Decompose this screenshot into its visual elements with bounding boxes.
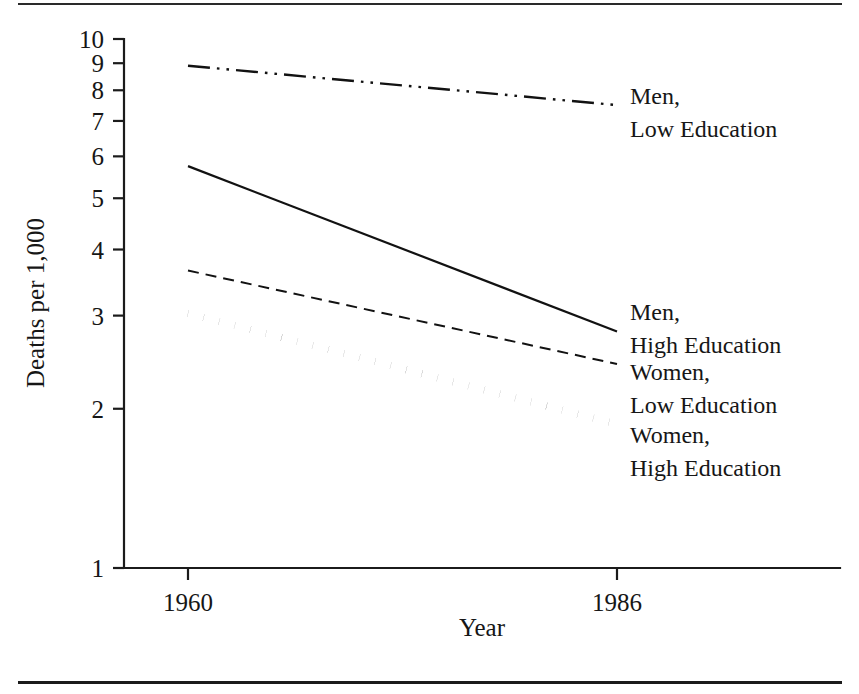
y-tick-label-5: 5 xyxy=(92,185,105,212)
x-axis-title: Year xyxy=(459,614,506,641)
y-tick-label-8: 8 xyxy=(92,77,105,104)
x-tick-label-1960: 1960 xyxy=(163,589,213,616)
x-axis-tick-labels: 19601986 xyxy=(163,589,642,616)
series-line-men-low-education xyxy=(188,66,617,105)
series-label-men-low-education-line2: Low Education xyxy=(630,116,777,142)
x-axis-ticks xyxy=(188,568,617,580)
y-axis-title: Deaths per 1,000 xyxy=(22,218,49,388)
y-tick-label-9: 9 xyxy=(92,50,105,77)
y-tick-label-10: 10 xyxy=(79,26,104,53)
y-axis-tick-labels: 12345678910 xyxy=(79,26,105,582)
y-tick-label-2: 2 xyxy=(92,396,105,423)
series-line-women-high-education xyxy=(188,313,617,424)
series-label-women-high-education-line2: High Education xyxy=(630,455,781,481)
series-label-women-low-education-line2: Low Education xyxy=(630,392,777,418)
x-tick-label-1986: 1986 xyxy=(592,589,642,616)
series-label-men-low-education-line1: Men, xyxy=(630,83,680,109)
series-lines xyxy=(188,66,617,424)
figure-container: 12345678910 19601986 Men,Low EducationMe… xyxy=(0,0,859,694)
series-line-men-high-education xyxy=(188,166,617,331)
y-tick-label-3: 3 xyxy=(92,303,105,330)
series-label-men-high-education-line2: High Education xyxy=(630,332,781,358)
series-label-men-high-education-line1: Men, xyxy=(630,299,680,325)
y-tick-label-6: 6 xyxy=(92,143,105,170)
y-tick-label-4: 4 xyxy=(92,237,105,264)
y-axis-ticks xyxy=(113,39,124,568)
series-annotations: Men,Low EducationMen,High EducationWomen… xyxy=(630,83,781,481)
series-line-women-low-education xyxy=(188,271,617,364)
series-label-women-low-education-line1: Women, xyxy=(630,359,710,385)
series-label-women-high-education-line1: Women, xyxy=(630,422,710,448)
y-tick-label-1: 1 xyxy=(92,555,105,582)
y-tick-label-7: 7 xyxy=(92,108,105,135)
line-chart: 12345678910 19601986 Men,Low EducationMe… xyxy=(0,0,859,694)
